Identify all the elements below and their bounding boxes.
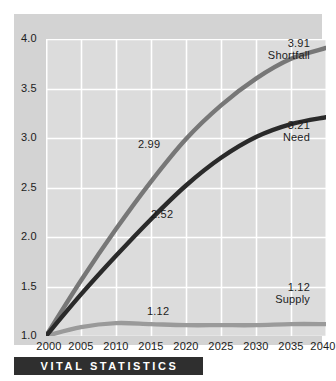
annotation-supply-midpoint: 1.12: [147, 305, 169, 317]
x-axis-tick-label: 2015: [138, 341, 163, 352]
y-axis-tick-label: 1.5: [21, 281, 37, 292]
chart-outer-panel: 1.01.52.02.53.03.54.0 200020052010201520…: [14, 14, 322, 345]
x-axis-tick-label: 2040: [310, 341, 335, 352]
annotation-supply-name: Supply: [275, 293, 310, 305]
x-axis-tick-label: 2010: [103, 341, 128, 352]
annotation-need: 3.21 Need: [283, 119, 310, 144]
y-axis-tick-label: 2.0: [21, 231, 37, 242]
annotation-supply: 1.12 Supply: [275, 281, 310, 306]
annotation-need-value: 3.21: [283, 119, 310, 131]
y-axis-tick-label: 4.0: [21, 33, 37, 44]
y-axis-tick-label: 1.0: [21, 330, 37, 341]
y-axis-tick-label: 2.5: [21, 182, 37, 193]
x-axis-tick-label: 2020: [173, 341, 198, 352]
x-axis-tick-label: 2025: [208, 341, 233, 352]
annotation-need-midpoint: 2.52: [151, 208, 173, 220]
annotation-shortfall-midpoint: 2.99: [138, 138, 160, 150]
annotation-need-name: Need: [283, 131, 310, 143]
x-axis-tick-label: 2030: [243, 341, 268, 352]
x-axis-tick-label: 2035: [278, 341, 303, 352]
annotation-supply-value: 1.12: [275, 281, 310, 293]
annotation-shortfall: 3.91 Shortfall: [268, 37, 310, 62]
annotation-shortfall-value: 3.91: [268, 37, 310, 49]
annotation-shortfall-name: Shortfall: [268, 49, 310, 61]
vital-statistics-banner: VITAL STATISTICS: [14, 357, 203, 375]
banner-title: VITAL STATISTICS: [39, 361, 179, 372]
y-axis-tick-label: 3.0: [21, 132, 37, 143]
x-axis-tick-label: 2005: [68, 341, 93, 352]
y-axis-tick-label: 3.5: [21, 83, 37, 94]
x-axis-tick-label: 2000: [36, 341, 61, 352]
x-axis-labels: 200020052010201520202025203020352040: [46, 339, 326, 357]
